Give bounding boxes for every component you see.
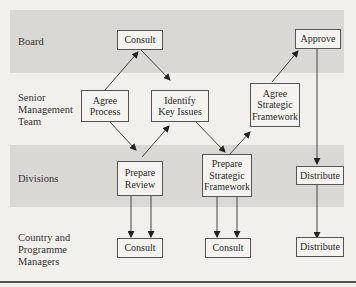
node-consult-cpm-2: Consult [205, 238, 251, 258]
node-approve: Approve [295, 29, 341, 49]
node-prepare-strategic-framework: Prepare Strategic Framework [202, 154, 252, 197]
bottom-rule [0, 281, 356, 283]
node-prepare-review: Prepare Review [117, 161, 163, 196]
node-identify-key-issues: Identify Key Issues [151, 90, 209, 122]
node-consult-board: Consult [117, 30, 163, 50]
node-consult-cpm-1: Consult [117, 238, 163, 258]
node-agree-strategic-framework: Agree Strategic Framework [250, 83, 300, 127]
node-agree-process: Agree Process [81, 90, 129, 122]
node-distribute-cpm: Distribute [296, 237, 344, 257]
node-distribute-divisions: Distribute [296, 166, 344, 185]
